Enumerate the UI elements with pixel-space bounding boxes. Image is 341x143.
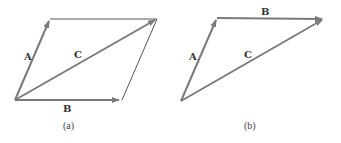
label-b: B [63, 103, 71, 114]
panel-b: A C B (b) [181, 6, 322, 132]
label-a: A [188, 51, 197, 62]
parallelogram-right-side [122, 19, 157, 100]
label-a: A [23, 51, 32, 62]
vector-addition-figure: A C B (a) A C B (b) [0, 0, 341, 143]
label-c: C [74, 49, 82, 60]
vector-c-arrow [181, 20, 322, 101]
caption-b: (b) [244, 120, 256, 132]
caption-a: (a) [63, 120, 74, 132]
panel-a: A C B (a) [15, 19, 157, 132]
label-c: C [244, 49, 252, 60]
vector-a-arrow [181, 20, 216, 101]
vector-a-arrow [15, 21, 49, 100]
vector-b-arrow [217, 18, 322, 19]
vector-c-arrow [15, 20, 155, 100]
label-b: B [261, 6, 269, 17]
